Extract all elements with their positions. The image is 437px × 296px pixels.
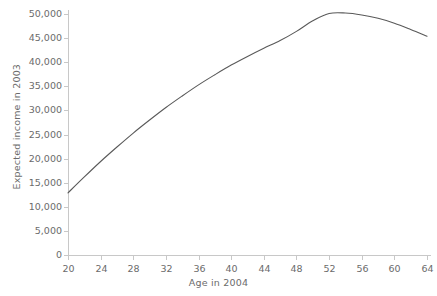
chart-container: Expected income in 2003 Age in 2004 05,0… [0,0,437,296]
y-tick-label: 35,000 [16,80,62,91]
y-tick-label: 50,000 [16,8,62,19]
y-tick-label: 5,000 [16,225,62,236]
line-series-expected-income [68,13,427,193]
x-tick-label: 64 [408,263,437,274]
y-tick-label: 20,000 [16,153,62,164]
y-tick-label: 30,000 [16,104,62,115]
y-tick-label: 25,000 [16,129,62,140]
chart-canvas [0,0,437,296]
y-tick-label: 10,000 [16,201,62,212]
axis-lines [69,10,432,256]
y-tick-label: 45,000 [16,32,62,43]
y-tick-label: 15,000 [16,177,62,188]
y-tick-label: 0 [16,249,62,260]
y-tick-label: 40,000 [16,56,62,67]
tick-marks [64,15,428,261]
